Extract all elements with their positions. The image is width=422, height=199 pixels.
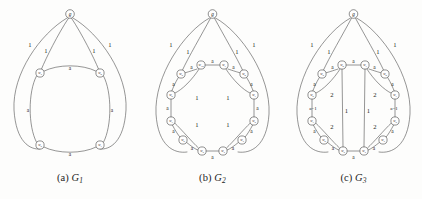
node-label: w1 — [98, 143, 102, 148]
graph-node-w1[interactable]: w1 — [220, 61, 228, 69]
graph-node-w4[interactable]: w4 — [360, 147, 368, 155]
edge-weight-label: 1 — [44, 47, 47, 54]
edge-weight-label: 2 — [373, 123, 376, 130]
edge-weight-label: a — [211, 58, 214, 64]
g1-weight-labels: 1111aaaa — [27, 41, 114, 158]
caption-g1-prefix: (a) — [57, 172, 69, 183]
graph-node-w3r[interactable]: w3 — [238, 136, 246, 144]
graph-node-w2r[interactable]: w2 — [250, 117, 258, 125]
edge-weight-label: 1 — [195, 121, 198, 128]
edge-apex-outer-right — [216, 18, 270, 152]
graph-node-w6[interactable]: w6 — [179, 136, 187, 144]
graph-node-w9[interactable]: w9 — [177, 70, 185, 78]
graph-node-w9r[interactable]: w0 — [240, 70, 248, 78]
edge-vertical-right — [364, 69, 365, 147]
node-label: w8 — [310, 93, 314, 98]
graph-node-w5[interactable]: w5 — [198, 147, 206, 155]
node-label: w4 — [362, 149, 366, 154]
node-label: w7 — [169, 119, 173, 124]
node-label: g — [211, 11, 214, 17]
edge-weight-label: a — [331, 64, 334, 70]
node-label: w4 — [221, 149, 225, 154]
figure-panel-g3: 1111aaaaaaaaaa222211a−1a−1 gw0w1w9w0w8w1… — [285, 0, 422, 199]
graph-node-w3[interactable]: w3 — [36, 69, 44, 77]
node-label: w0 — [98, 71, 102, 76]
edge-weight-label: a — [352, 154, 355, 160]
edge-weight-label: 1 — [195, 94, 198, 101]
graph-node-w0[interactable]: w0 — [96, 69, 104, 77]
g1-edges — [14, 18, 126, 152]
edge-weight-label: 1 — [28, 41, 31, 48]
graph-node-g[interactable]: g — [349, 10, 358, 19]
edge-weight-label: a — [191, 145, 194, 151]
chord-w7-w5 — [316, 123, 340, 148]
edge-weight-label: a — [256, 105, 259, 111]
graph-node-g[interactable]: g — [208, 10, 217, 19]
graph-node-w8[interactable]: w8 — [308, 91, 316, 99]
graph-node-w4[interactable]: w4 — [219, 147, 227, 155]
edge-w1-w9r — [228, 69, 240, 73]
caption-g3-prefix: (c) — [340, 172, 352, 183]
edge-weight-label: 1 — [169, 41, 172, 48]
edge-weight-label: a — [391, 128, 394, 134]
graph-node-w8[interactable]: w8 — [167, 91, 175, 99]
graph-node-w7[interactable]: w7 — [167, 117, 175, 125]
graph-node-w1r[interactable]: w1 — [250, 91, 258, 99]
node-label: w0 — [340, 63, 344, 68]
graph-node-w10[interactable]: w0 — [338, 61, 346, 69]
edge-weight-label: 2 — [330, 91, 333, 98]
edge-weight-label: a — [27, 107, 30, 113]
edge-weight-label: a — [232, 64, 235, 70]
graph-g1: 1111aaaa gw3w0w2w1 — [0, 0, 140, 172]
graph-node-w0r[interactable]: w0 — [381, 70, 389, 78]
graph-node-w7[interactable]: w7 — [308, 117, 316, 125]
edge-weight-label: 1 — [393, 41, 396, 48]
graph-node-w9[interactable]: w9 — [318, 70, 326, 78]
edge-weight-label: a−1 — [390, 106, 398, 111]
edge-weight-label: 1 — [345, 107, 348, 114]
node-label: w2 — [252, 119, 256, 124]
caption-g1-sub: 1 — [79, 176, 83, 185]
edge-weight-label: 1 — [376, 48, 379, 55]
graph-node-w1[interactable]: w1 — [96, 141, 104, 149]
graph-node-w5[interactable]: w5 — [339, 147, 347, 155]
edge-vertical-left — [342, 69, 343, 147]
edge-weight-label: 1 — [226, 121, 229, 128]
graph-node-w2r[interactable]: w2 — [391, 117, 399, 125]
node-label: w9 — [320, 72, 324, 77]
edge-w9-w10 — [326, 69, 338, 73]
graph-node-w1r[interactable]: w1 — [391, 91, 399, 99]
node-label: w1 — [363, 63, 367, 68]
graph-node-w1[interactable]: w1 — [361, 61, 369, 69]
edge-weight-label: a — [391, 81, 394, 87]
edge-w0-w1 — [104, 76, 110, 142]
edge-weight-label: a — [211, 154, 214, 160]
figure-panel-g1: 1111aaaa gw3w0w2w1 (a) G1 — [0, 0, 140, 199]
graph-node-w3r[interactable]: w3 — [379, 136, 387, 144]
edge-apex-w3 — [42, 18, 69, 69]
edge-weight-label: a — [352, 58, 355, 64]
graph-node-w2[interactable]: w2 — [36, 141, 44, 149]
edge-apex-w0r — [356, 18, 384, 70]
edge-w1-w0r — [369, 69, 381, 73]
edge-weight-label: a — [172, 128, 175, 134]
edge-weight-label: a — [190, 64, 193, 70]
caption-g2-prefix: (b) — [199, 172, 212, 183]
node-label: w8 — [169, 93, 173, 98]
graph-node-g[interactable]: g — [66, 10, 75, 19]
edge-weight-label: 1 — [235, 48, 238, 55]
graph-node-w6[interactable]: w6 — [320, 136, 328, 144]
node-label: w0 — [383, 72, 387, 77]
node-label: w1 — [222, 63, 226, 68]
edge-apex-outer-left — [156, 18, 210, 152]
edge-weight-label: 1 — [367, 107, 370, 114]
caption-g2-name: G — [214, 172, 222, 183]
node-label: w7 — [310, 119, 314, 124]
caption-g1: (a) G1 — [0, 172, 140, 185]
graph-node-w10[interactable]: w10 — [197, 61, 205, 69]
node-label: w1 — [252, 93, 256, 98]
edge-weight-label: a — [250, 128, 253, 134]
node-label: w2 — [38, 143, 42, 148]
edge-apex-w0 — [72, 18, 99, 69]
edge-weight-label: 2 — [330, 123, 333, 130]
